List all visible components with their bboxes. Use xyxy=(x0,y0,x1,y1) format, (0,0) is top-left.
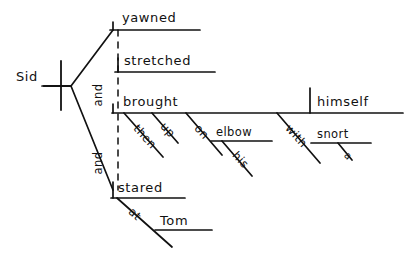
prep-object-label-snort: snort xyxy=(317,129,349,141)
prep-object-label-tom: Tom xyxy=(160,214,188,227)
fork-arm-upper xyxy=(71,30,113,86)
sentence-diagram-canvas: Sid yawned stretched brought stared hims… xyxy=(0,0,405,256)
direct-object-label-himself: himself xyxy=(317,95,369,108)
predicate-label-yawned: yawned xyxy=(122,11,176,24)
predicate-label-stretched: stretched xyxy=(124,54,191,67)
predicate-label-brought: brought xyxy=(123,95,178,108)
conjunction-label-and-upper: and xyxy=(93,84,105,107)
predicate-label-stared: stared xyxy=(118,181,163,194)
prep-object-label-elbow: elbow xyxy=(216,127,252,139)
subject-label-sid: Sid xyxy=(16,70,38,83)
conjunction-label-and-lower: and xyxy=(93,152,105,175)
